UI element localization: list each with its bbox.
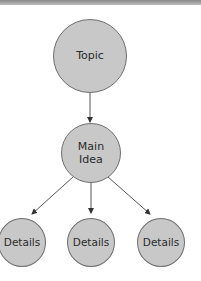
- detail-label-3: Details: [143, 236, 179, 249]
- arrow-main-to-detail-1: [32, 177, 73, 214]
- main-idea-label: Main Idea: [78, 140, 104, 166]
- topic-node: Topic: [53, 19, 127, 93]
- detail-node-1: Details: [0, 218, 46, 267]
- arrow-main-to-detail-3: [108, 177, 150, 214]
- topic-label: Topic: [76, 49, 104, 62]
- detail-node-3: Details: [137, 218, 185, 267]
- detail-label-1: Details: [4, 236, 40, 249]
- detail-node-2: Details: [67, 218, 115, 267]
- main-idea-node: Main Idea: [61, 123, 121, 183]
- detail-label-2: Details: [73, 236, 109, 249]
